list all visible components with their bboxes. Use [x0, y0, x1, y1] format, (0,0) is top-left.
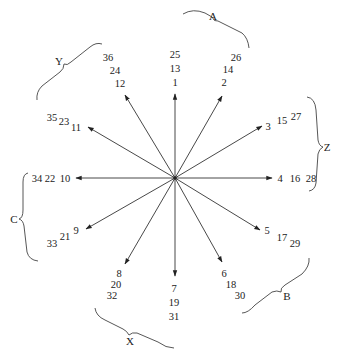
- label-9: 9: [73, 225, 78, 236]
- arrow-9: [86, 178, 175, 229]
- radial-diagram: A Z B X C Y 1 13 25 2 14 26 3 15 27 4 16…: [0, 0, 341, 360]
- arrows: [76, 94, 272, 276]
- label-23: 23: [59, 116, 70, 127]
- label-8: 8: [116, 268, 121, 279]
- label-21: 21: [60, 231, 71, 242]
- brace-b: [242, 258, 309, 313]
- arrow-5: [175, 178, 260, 230]
- label-25: 25: [170, 49, 181, 60]
- group-label-a: A: [209, 10, 217, 22]
- label-29: 29: [290, 238, 301, 249]
- label-36: 36: [103, 52, 114, 63]
- label-3: 3: [265, 121, 270, 132]
- brace-y: [37, 43, 102, 100]
- label-18: 18: [226, 279, 237, 290]
- brace-x: [95, 308, 174, 348]
- center-point: [173, 176, 177, 180]
- label-28: 28: [306, 173, 317, 184]
- arrow-6: [175, 178, 222, 262]
- arrow-3: [175, 126, 262, 178]
- label-34: 34: [32, 173, 43, 184]
- label-6: 6: [221, 268, 226, 279]
- label-1: 1: [172, 77, 177, 88]
- label-31: 31: [169, 311, 180, 322]
- label-12: 12: [115, 78, 126, 89]
- label-15: 15: [277, 115, 288, 126]
- label-20: 20: [111, 279, 122, 290]
- label-11: 11: [71, 122, 81, 133]
- label-4: 4: [277, 173, 283, 184]
- arrow-2: [175, 96, 222, 178]
- label-24: 24: [110, 65, 121, 76]
- group-label-c: C: [10, 213, 17, 225]
- label-32: 32: [107, 290, 118, 301]
- label-17: 17: [277, 232, 288, 243]
- label-33: 33: [47, 238, 58, 249]
- label-30: 30: [235, 290, 246, 301]
- label-22: 22: [45, 173, 56, 184]
- group-label-x: X: [126, 335, 134, 347]
- group-label-y: Y: [55, 55, 63, 67]
- label-2: 2: [221, 77, 226, 88]
- arrow-number-labels: 1 13 25 2 14 26 3 15 27 4 16 28 5 17 29 …: [32, 49, 317, 322]
- label-35: 35: [47, 112, 58, 123]
- label-10: 10: [60, 173, 71, 184]
- brace-c: [19, 173, 38, 261]
- label-13: 13: [170, 63, 181, 74]
- arrow-11: [88, 127, 175, 178]
- label-27: 27: [291, 111, 302, 122]
- label-26: 26: [231, 52, 242, 63]
- arrow-12: [125, 95, 175, 178]
- label-16: 16: [290, 173, 301, 184]
- arrow-8: [125, 178, 175, 264]
- label-14: 14: [223, 64, 234, 75]
- group-label-z: Z: [324, 141, 331, 153]
- label-19: 19: [169, 297, 180, 308]
- label-7: 7: [171, 283, 176, 294]
- group-label-b: B: [283, 290, 290, 302]
- label-5: 5: [264, 225, 269, 236]
